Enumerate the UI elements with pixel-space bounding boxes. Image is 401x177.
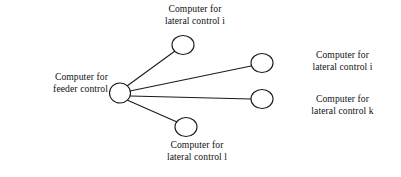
node-lateral-control-l-bottom (175, 118, 197, 137)
node-feeder-control (110, 83, 131, 103)
diagram-canvas: Computer for lateral control i Computer … (0, 0, 401, 177)
node-lateral-control-k-right (251, 90, 273, 109)
label-feeder-control: Computer for feeder control (2, 71, 108, 94)
node-lateral-control-i-top (172, 36, 194, 55)
link-feeder-to-lateral-k-right (131, 96, 252, 99)
node-lateral-control-i-right (251, 54, 273, 73)
link-feeder-to-lateral-i-top (127, 51, 175, 86)
label-lateral-control-i-top: Computer for lateral control i (129, 3, 261, 26)
link-feeder-to-lateral-i-right (130, 66, 251, 91)
label-lateral-control-i-right: Computer for lateral control i (286, 49, 399, 72)
link-feeder-to-lateral-l-bottom (127, 100, 177, 122)
label-lateral-control-k-right: Computer for lateral control k (286, 93, 399, 116)
label-lateral-control-l-bottom: Computer for lateral control l (130, 139, 264, 162)
